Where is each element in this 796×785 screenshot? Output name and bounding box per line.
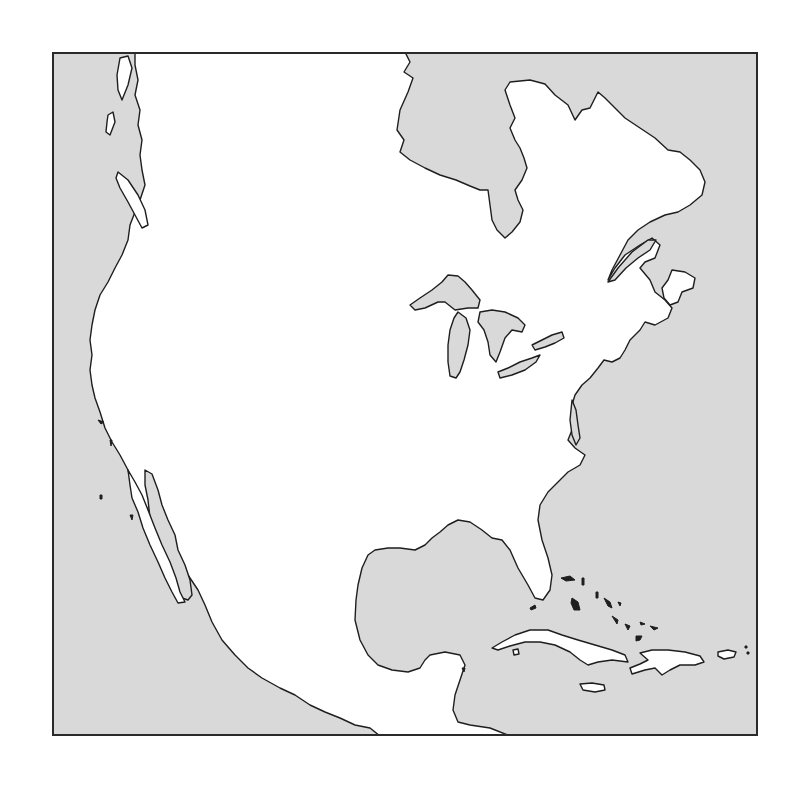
virgin-islands xyxy=(745,646,749,654)
chesapeake-bay xyxy=(570,400,580,445)
isla-de-la-juventud xyxy=(513,649,519,655)
jamaica xyxy=(580,683,605,692)
hispaniola xyxy=(630,650,704,675)
cuba xyxy=(492,630,628,665)
haida-gwaii xyxy=(106,112,115,135)
puerto-rico xyxy=(718,650,736,659)
newfoundland xyxy=(662,270,695,305)
north-america-map xyxy=(52,52,758,736)
alaska-panhandle-island xyxy=(117,56,132,100)
map-frame xyxy=(52,52,758,736)
north-america-landmass xyxy=(90,52,705,736)
